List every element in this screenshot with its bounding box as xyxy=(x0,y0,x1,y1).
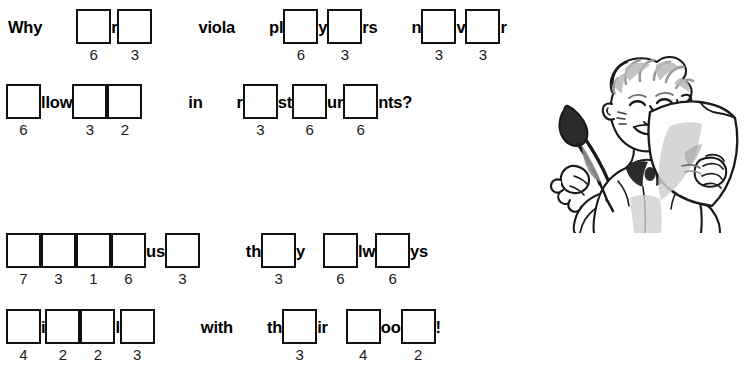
answer-box-cell[interactable] xyxy=(346,309,381,344)
answer-box-clue-number: 4 xyxy=(359,344,367,366)
answer-box-clue-number: 3 xyxy=(435,44,443,66)
answer-box-cell[interactable] xyxy=(261,233,296,268)
answer-box-clue-number: 3 xyxy=(341,44,349,66)
answer-box-clue-number: 6 xyxy=(90,44,98,66)
puzzle-text: th xyxy=(246,232,261,270)
answer-box[interactable]: 6 xyxy=(111,232,146,290)
answer-box-cell[interactable] xyxy=(45,309,80,344)
puzzle-line-3: 7316us3th3y6lw6ys xyxy=(6,232,428,292)
answer-box[interactable]: 3 xyxy=(465,8,500,66)
answer-box-cell[interactable] xyxy=(72,84,107,119)
answer-box[interactable]: 6 xyxy=(76,8,111,66)
puzzle-text-chunk: ir xyxy=(317,308,328,368)
answer-box-cell[interactable] xyxy=(292,84,327,119)
answer-box[interactable]: 6 xyxy=(292,83,327,141)
answer-box-cell[interactable] xyxy=(76,233,111,268)
puzzle-text-chunk: n xyxy=(412,8,422,68)
answer-box-cell[interactable] xyxy=(41,233,76,268)
answer-box[interactable]: 3 xyxy=(41,232,76,290)
answer-box-cell[interactable] xyxy=(80,309,115,344)
puzzle-text-chunk: with xyxy=(201,308,233,368)
answer-box[interactable]: 6 xyxy=(343,83,378,141)
answer-box-cell[interactable] xyxy=(323,233,358,268)
answer-box-clue-number: 3 xyxy=(274,268,282,290)
answer-box[interactable]: 4 xyxy=(6,308,41,366)
answer-box[interactable]: 2 xyxy=(401,308,436,366)
answer-box-clue-number: 7 xyxy=(19,268,27,290)
answer-box[interactable]: 6 xyxy=(323,232,358,290)
puzzle-text-chunk: y xyxy=(296,232,305,292)
puzzle-text: in xyxy=(188,83,202,121)
puzzle-text-chunk: th xyxy=(246,232,261,292)
puzzle-text: ir xyxy=(317,308,328,346)
answer-box-clue-number: 2 xyxy=(414,344,422,366)
answer-box-cell[interactable] xyxy=(283,9,318,44)
puzzle-text: pl xyxy=(269,8,283,46)
puzzle-text-chunk: r xyxy=(500,8,506,68)
answer-box[interactable]: 3 xyxy=(421,8,456,66)
answer-box-cell[interactable] xyxy=(243,84,278,119)
puzzle-text: viola xyxy=(198,8,235,46)
puzzle-text-chunk: llow xyxy=(41,83,72,143)
puzzle-line-2: 6llow32inr3st6ur6nts? xyxy=(6,83,412,143)
answer-box-cell[interactable] xyxy=(165,233,200,268)
answer-box-cell[interactable] xyxy=(343,84,378,119)
answer-box-cell[interactable] xyxy=(282,309,317,344)
answer-box[interactable]: 4 xyxy=(346,308,381,366)
answer-box[interactable]: 3 xyxy=(117,8,152,66)
answer-box-clue-number: 3 xyxy=(133,344,141,366)
answer-box-cell[interactable] xyxy=(465,9,500,44)
answer-box-cell[interactable] xyxy=(111,233,146,268)
answer-box-cell[interactable] xyxy=(6,84,41,119)
answer-box-clue-number: 3 xyxy=(54,268,62,290)
puzzle-text-chunk: nts? xyxy=(378,83,412,143)
answer-box-cell[interactable] xyxy=(76,9,111,44)
answer-box-clue-number: 6 xyxy=(19,119,27,141)
answer-box[interactable]: 2 xyxy=(45,308,80,366)
puzzle-text: Why xyxy=(8,8,42,46)
puzzle-text: y xyxy=(318,8,327,46)
puzzle-text-chunk: th xyxy=(267,308,282,368)
answer-box-cell[interactable] xyxy=(6,309,41,344)
puzzle-text-chunk: v xyxy=(456,8,465,68)
answer-box[interactable]: 3 xyxy=(165,232,200,290)
answer-box-clue-number: 2 xyxy=(121,119,129,141)
answer-box-clue-number: 3 xyxy=(86,119,94,141)
answer-box-clue-number: 1 xyxy=(89,268,97,290)
answer-box[interactable]: 6 xyxy=(375,232,410,290)
answer-box-cell[interactable] xyxy=(327,9,362,44)
answer-box[interactable]: 3 xyxy=(120,308,155,366)
answer-box[interactable]: 7 xyxy=(6,232,41,290)
answer-box[interactable]: 1 xyxy=(76,232,111,290)
answer-box-cell[interactable] xyxy=(6,233,41,268)
answer-box[interactable]: 3 xyxy=(72,83,107,141)
answer-box-clue-number: 6 xyxy=(357,119,365,141)
answer-box[interactable]: 2 xyxy=(107,83,142,141)
answer-box[interactable]: 3 xyxy=(327,8,362,66)
answer-box-clue-number: 2 xyxy=(59,344,67,366)
puzzle-text: oo xyxy=(381,308,401,346)
puzzle-text-chunk: ! xyxy=(436,308,441,368)
answer-box[interactable]: 3 xyxy=(282,308,317,366)
answer-box-cell[interactable] xyxy=(107,84,142,119)
puzzle-text-chunk: pl xyxy=(269,8,283,68)
puzzle-text-chunk: in xyxy=(188,83,202,143)
answer-box-cell[interactable] xyxy=(117,9,152,44)
answer-box-cell[interactable] xyxy=(120,309,155,344)
answer-box-cell[interactable] xyxy=(375,233,410,268)
answer-box-clue-number: 6 xyxy=(305,119,313,141)
puzzle-text: st xyxy=(278,83,292,121)
answer-box-clue-number: 3 xyxy=(296,344,304,366)
answer-box[interactable]: 3 xyxy=(261,232,296,290)
puzzle-text-chunk: lw xyxy=(358,232,375,292)
answer-box[interactable]: 3 xyxy=(243,83,278,141)
shirt-shading xyxy=(630,195,662,233)
answer-box-cell[interactable] xyxy=(421,9,456,44)
answer-box[interactable]: 2 xyxy=(80,308,115,366)
answer-box[interactable]: 6 xyxy=(6,83,41,141)
answer-box-cell[interactable] xyxy=(401,309,436,344)
puzzle-text: v xyxy=(456,8,465,46)
puzzle-text: rs xyxy=(362,8,377,46)
answer-box[interactable]: 6 xyxy=(283,8,318,66)
answer-box-clue-number: 3 xyxy=(479,44,487,66)
